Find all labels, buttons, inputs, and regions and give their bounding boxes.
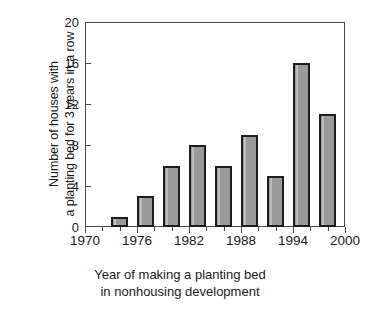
x-axis-minor-tick-mark: [310, 227, 311, 231]
bar-highlight: [192, 147, 194, 225]
bar-highlight: [322, 116, 324, 225]
x-axis-minor-tick-mark: [258, 227, 259, 231]
bar: [137, 196, 154, 227]
bar-highlight: [166, 168, 168, 226]
x-axis-tick-label: 1970: [55, 233, 115, 248]
y-axis-title: Number of houses with a planting bed for…: [46, 10, 78, 238]
bar-highlight: [296, 65, 298, 225]
bar-highlight: [114, 219, 116, 225]
x-axis-title: Year of making a planting bed in nonhous…: [30, 266, 330, 300]
x-axis-minor-tick-mark: [120, 227, 121, 231]
x-axis-title-line-2: in nonhousing development: [30, 283, 330, 300]
bar: [189, 145, 206, 227]
y-axis-tick-mark: [85, 186, 91, 187]
y-axis-tick-mark: [85, 145, 91, 146]
bar: [215, 166, 232, 228]
bar: [241, 135, 258, 227]
bar: [163, 166, 180, 228]
x-axis-minor-tick-mark: [328, 227, 329, 231]
bar: [267, 176, 284, 227]
bar: [293, 63, 310, 227]
y-axis-tick-label: 12: [45, 98, 79, 111]
bar-highlight: [270, 178, 272, 225]
y-axis-title-line-2: a planting bed for 3 years in a row: [62, 10, 78, 238]
bar: [319, 114, 336, 227]
x-axis-title-line-1: Year of making a planting bed: [94, 267, 266, 282]
y-axis-tick-mark: [85, 63, 91, 64]
x-axis-tick-label: 1988: [211, 233, 271, 248]
bar: [111, 217, 128, 227]
y-axis-title-line-1: Number of houses with: [47, 61, 61, 187]
x-axis-tick-label: 2000: [315, 233, 365, 248]
y-axis-tick-mark: [85, 104, 91, 105]
y-axis-tick-label: 4: [45, 180, 79, 193]
x-axis-tick-label: 1994: [263, 233, 323, 248]
x-axis-tick-label: 1982: [159, 233, 219, 248]
x-axis-tick-label: 1976: [107, 233, 167, 248]
y-axis-title-wrapper: Number of houses with a planting bed for…: [0, 0, 52, 245]
x-axis-minor-tick-mark: [206, 227, 207, 231]
x-axis-minor-tick-mark: [224, 227, 225, 231]
y-axis-tick-label: 20: [45, 16, 79, 29]
x-axis-minor-tick-mark: [154, 227, 155, 231]
y-axis-tick-label: 8: [45, 139, 79, 152]
x-axis-minor-tick-mark: [276, 227, 277, 231]
bar-highlight: [218, 168, 220, 226]
y-axis-tick-label: 16: [45, 57, 79, 70]
bar-highlight: [244, 137, 246, 225]
x-axis-minor-tick-mark: [172, 227, 173, 231]
x-axis-minor-tick-mark: [102, 227, 103, 231]
bar-highlight: [140, 198, 142, 225]
